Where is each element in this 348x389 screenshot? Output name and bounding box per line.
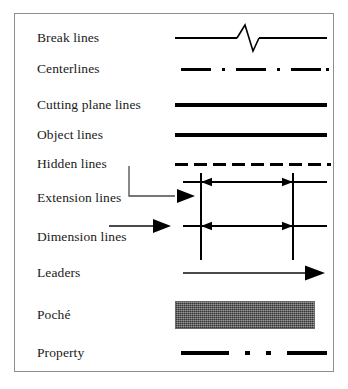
line-type-label-dimension-lines: Dimension lines [37, 229, 127, 245]
line-type-label-poche-swatch: Poché [37, 307, 71, 323]
line-type-label-object-line: Object lines [37, 127, 103, 143]
line-type-label-cutting-plane-line: Cutting plane lines [37, 97, 141, 113]
line-sample-svg-cutting-plane-line [175, 95, 327, 115]
line-sample-svg-property-line [175, 343, 327, 363]
line-sample-poche-swatch [175, 301, 315, 329]
line-sample-svg-break-line [175, 18, 327, 58]
line-type-label-property-line: Property [37, 345, 84, 361]
line-type-label-centerline: Centerlines [37, 61, 100, 77]
line-type-label-leader: Leaders [37, 265, 80, 281]
line-type-label-extension-lines: Extension lines [37, 190, 121, 206]
line-sample-svg-dimension-lines [175, 214, 327, 260]
line-sample-svg-leader [175, 263, 327, 283]
line-sample-svg-object-line [175, 125, 327, 145]
diagram-frame: Break linesCenterlinesCutting plane line… [14, 13, 334, 372]
line-type-label-hidden-line: Hidden lines [37, 156, 107, 172]
line-type-label-break-line: Break lines [37, 30, 99, 46]
line-sample-svg-centerline [175, 59, 327, 79]
